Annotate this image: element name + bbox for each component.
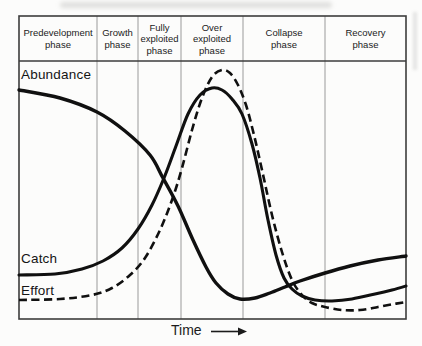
right-arrow-icon [238, 328, 247, 336]
phase-cell-growth: Growth phase [97, 17, 138, 61]
fishery-phases-diagram: Predevelopment phase Growth phase Fully … [0, 0, 422, 346]
time-arrow [211, 328, 247, 336]
phase-cell-predevelopment: Predevelopment phase [19, 17, 97, 61]
phase-cell-collapse: Collapse phase [243, 17, 325, 61]
phase-cell-recovery: Recovery phase [325, 17, 406, 61]
effort-label: Effort [21, 283, 54, 298]
abundance-label: Abundance [21, 67, 91, 82]
time-axis-label: Time [171, 322, 202, 338]
abundance-curve [19, 90, 406, 299]
phase-cell-over-exploited: Over exploited phase [181, 17, 243, 61]
phase-cell-fully-exploited: Fully exploited phase [138, 17, 181, 61]
catch-curve [19, 88, 406, 301]
catch-label: Catch [21, 251, 57, 266]
effort-curve [19, 70, 406, 311]
